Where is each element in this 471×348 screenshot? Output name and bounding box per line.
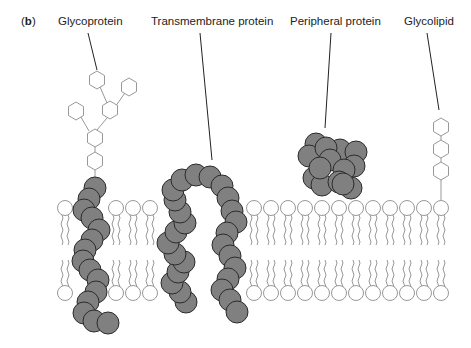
glycoprotein-sugar-chain: [69, 71, 137, 178]
leader-lines: [88, 33, 439, 160]
glycoprotein: [72, 177, 119, 334]
transmembrane-protein: [157, 164, 248, 323]
lipid-bilayer: [58, 201, 449, 301]
peripheral-protein: [298, 133, 367, 199]
cell-membrane-diagram: (b) Glycoprotein Transmembrane protein P…: [0, 0, 471, 348]
membrane-svg: [0, 0, 471, 348]
glycolipid-sugar-chain: [434, 118, 449, 200]
